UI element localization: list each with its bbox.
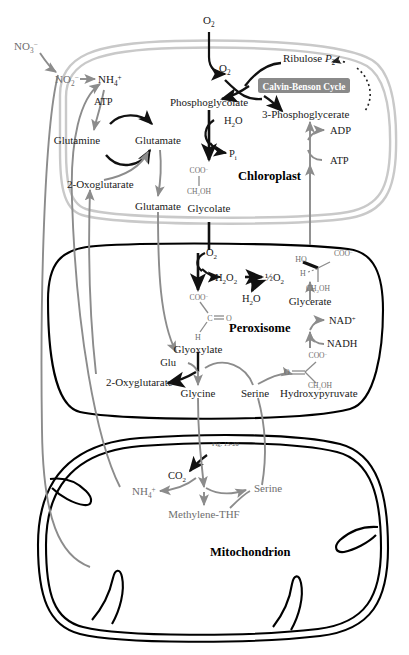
label-atp-glycerate-kinase: ATP (330, 155, 349, 166)
label-glycerate-ho: HO (295, 255, 307, 264)
label-ammonium-chloroplast: NH4+ (98, 73, 122, 88)
label-phosphate-pi: Pi (229, 148, 237, 161)
label-glycerate-h: H (300, 269, 306, 278)
label-glyoxylate-hydrogen: H (195, 333, 201, 342)
label-water-catalase: H2O (242, 293, 261, 306)
label-glu: Glu (160, 357, 177, 368)
label-adp: ADP (330, 125, 351, 136)
label-oxyglutarate-peroxisome: 2-Oxyglutarate (106, 376, 173, 388)
label-mitochondrion: Mitochondrion (210, 545, 291, 559)
label-water-pglycolate: H2O (224, 115, 243, 128)
label-nadh: NADH (327, 338, 358, 349)
label-hydroxypyruvate-ch2oh: CH2OH (308, 381, 333, 391)
label-glycerate-ch2oh: CH2OH (306, 284, 331, 294)
label-glyoxylate: Glyoxylate (174, 343, 223, 355)
label-peroxisome: Peroxisome (229, 321, 291, 335)
label-figure-reference: Fig. 15-20 (212, 440, 239, 447)
label-three-phosphoglycerate: 3-Phosphoglycerate (262, 108, 349, 120)
label-glycerate: Glycerate (289, 295, 332, 307)
label-phosphoglycolate: Phosphoglycolate (170, 96, 248, 108)
label-hydroxypyruvate-coo: COO− (309, 351, 328, 360)
mitochondrion-membrane (38, 435, 388, 642)
label-glycine: Glycine (181, 387, 216, 399)
label-glyoxylate-carbon: C (207, 314, 212, 323)
label-carbon-dioxide: CO2 (168, 470, 187, 483)
label-oxygen-external: O2 (203, 14, 215, 29)
label-methylene-thf: Methylene-THF (168, 508, 239, 520)
label-glyoxylate-coo: COO− (190, 293, 209, 302)
label-half-oxygen: ½O2 (265, 272, 284, 285)
photorespiration-diagram: Calvin-Benson Cycle NO3− O2 O2 NO2− NH4+… (0, 0, 409, 655)
label-chloroplast: Chloroplast (238, 169, 302, 183)
label-glycolate: Glycolate (188, 202, 231, 214)
label-serine-mitochondrion: Serine (254, 482, 282, 494)
label-oxoglutarate-chloroplast: 2-Oxoglutarate (67, 178, 134, 190)
label-glycerate-coo: COO− (334, 249, 353, 258)
label-glycolate-coo: COO− (190, 166, 209, 175)
label-oxygen-peroxisome: O2 (206, 247, 218, 260)
label-hydrogen-peroxide: H2O2 (215, 272, 238, 285)
label-ammonium-mitochondrion: NH4+ (132, 485, 156, 500)
label-nitrate: NO3− (14, 40, 38, 55)
label-glutamate-lower: Glutamate (135, 200, 181, 212)
label-glutamine: Glutamine (54, 134, 101, 146)
label-atp-gs: ATP (94, 96, 113, 107)
label-serine-peroxisome: Serine (241, 387, 269, 399)
label-glycolate-ch2oh: CH2OH (187, 187, 212, 197)
label-hydroxypyruvate-o: O (284, 368, 290, 377)
label-nad-plus: NAD+ (329, 315, 356, 326)
label-ribulose-bisphosphate: Ribulose P2 (283, 52, 336, 67)
label-glutamate-upper: Glutamate (135, 134, 181, 146)
calvin-benson-cycle-label: Calvin-Benson Cycle (263, 82, 346, 92)
calvin-benson-cycle-box: Calvin-Benson Cycle (258, 78, 350, 93)
